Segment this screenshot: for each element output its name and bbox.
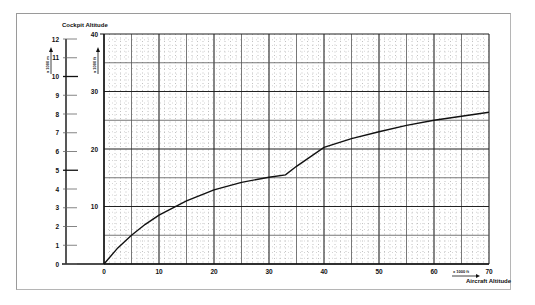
y-tick-label: 30 (91, 88, 99, 95)
meter-tick-label: 10 (52, 73, 60, 80)
chart-title: Cockpit Altitude (62, 22, 108, 28)
meter-tick-label: 0 (55, 261, 59, 268)
meter-tick-label: 2 (55, 223, 59, 230)
y-m-unit-arrowhead-icon (49, 47, 53, 52)
meter-tick-label: 4 (55, 186, 59, 193)
x-tick-label: 30 (265, 268, 273, 275)
x-tick-label: 0 (102, 268, 106, 275)
meter-tick-label: 8 (55, 111, 59, 118)
y-m-unit-label: x 1000 m (45, 56, 50, 73)
meter-tick-label: 9 (55, 92, 59, 99)
y-ft-unit-arrowhead-icon (96, 47, 100, 52)
meter-tick-label: 3 (55, 204, 59, 211)
x-axis-label: Aircraft Altitude (466, 278, 512, 284)
chart: 012345678910111210203040010203040506070 … (0, 0, 535, 305)
x-tick-label: 40 (320, 268, 328, 275)
meter-axis (63, 39, 78, 264)
x-tick-label: 70 (485, 268, 493, 275)
meter-tick-label: 11 (52, 54, 59, 61)
meter-tick-label: 7 (55, 129, 59, 136)
y-tick-label: 10 (91, 203, 99, 210)
y-ft-unit-label: x 1000 ft (92, 56, 97, 73)
y-tick-label: 20 (91, 146, 99, 153)
meter-tick-label: 1 (55, 242, 59, 249)
x-tick-label: 50 (375, 268, 383, 275)
x-tick-label: 10 (155, 268, 163, 275)
meter-tick-label: 5 (55, 167, 59, 174)
x-tick-label: 20 (210, 268, 218, 275)
meter-tick-label: 12 (52, 36, 60, 43)
x-unit-label: x 1000 ft (453, 269, 470, 274)
y-tick-label: 40 (91, 31, 99, 38)
x-tick-label: 60 (430, 268, 438, 275)
meter-tick-label: 6 (55, 148, 59, 155)
tick-labels: 012345678910111210203040010203040506070 (52, 31, 493, 276)
